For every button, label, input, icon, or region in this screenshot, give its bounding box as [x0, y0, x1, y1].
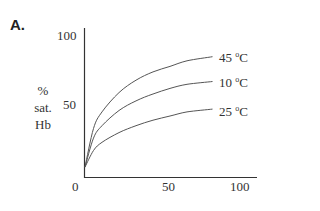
curve-45c [85, 57, 213, 167]
curve-10c [85, 82, 213, 168]
series-label-10c: 10 oC [219, 75, 248, 91]
series-label-25c: 25 oC [219, 104, 248, 120]
series-label-45c: 45 oC [219, 50, 248, 66]
curve-25c [85, 109, 213, 167]
